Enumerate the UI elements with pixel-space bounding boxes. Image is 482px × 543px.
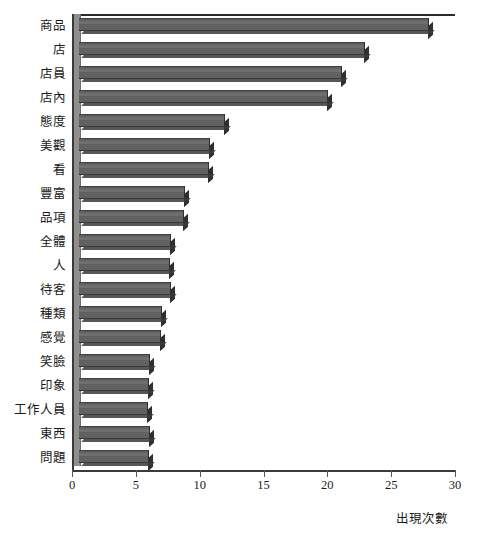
bar-depth-shadow bbox=[81, 222, 189, 226]
x-axis-title: 出現次數 bbox=[396, 508, 448, 527]
bar-highlight bbox=[79, 357, 149, 360]
bar[interactable] bbox=[79, 138, 210, 151]
bar-depth-shadow bbox=[81, 390, 155, 394]
category-label: 問題 bbox=[40, 451, 66, 464]
category-label: 美觀 bbox=[40, 139, 66, 152]
bar[interactable] bbox=[79, 402, 148, 415]
x-axis-tick bbox=[136, 470, 137, 477]
bar-depth-shadow bbox=[81, 342, 166, 346]
category-label: 工作人員 bbox=[14, 403, 66, 416]
bar[interactable] bbox=[79, 282, 171, 295]
x-axis-tick bbox=[455, 470, 456, 477]
bar-series bbox=[72, 14, 455, 472]
bar-highlight bbox=[79, 45, 364, 48]
bar-depth-shadow bbox=[81, 270, 175, 274]
category-label: 豐富 bbox=[40, 187, 66, 200]
category-label: 感覺 bbox=[40, 331, 66, 344]
x-axis-tick-label: 0 bbox=[69, 478, 75, 493]
category-label: 店 bbox=[53, 43, 66, 56]
x-axis-tick-label: 10 bbox=[193, 478, 206, 493]
x-axis-tick bbox=[200, 470, 201, 477]
bar-depth-shadow bbox=[81, 246, 177, 250]
bar[interactable] bbox=[79, 114, 225, 127]
category-axis-labels: 商品店店員店內態度美觀看豐富品項全體人待客種類感覺笑臉印象工作人員東西問題 bbox=[0, 14, 66, 472]
x-axis-tick-label: 25 bbox=[385, 478, 398, 493]
bar[interactable] bbox=[79, 330, 161, 343]
bar-highlight bbox=[79, 309, 161, 312]
bar-highlight bbox=[79, 141, 209, 144]
bar[interactable] bbox=[79, 210, 184, 223]
x-axis-tick bbox=[72, 470, 73, 477]
bar[interactable] bbox=[79, 162, 209, 175]
bar-depth-shadow bbox=[81, 462, 155, 466]
category-label: 店員 bbox=[40, 67, 66, 80]
bar-highlight bbox=[79, 429, 149, 432]
category-label: 店內 bbox=[40, 91, 66, 104]
bar[interactable] bbox=[79, 18, 429, 31]
x-axis-tick-label: 15 bbox=[257, 478, 270, 493]
bar-highlight bbox=[79, 93, 327, 96]
bar[interactable] bbox=[79, 354, 150, 367]
bar-highlight bbox=[79, 213, 183, 216]
x-axis-tick-label: 30 bbox=[449, 478, 462, 493]
category-label: 態度 bbox=[40, 115, 66, 128]
x-axis-tick bbox=[391, 470, 392, 477]
bar-highlight bbox=[79, 189, 184, 192]
bar-highlight bbox=[79, 261, 169, 264]
bar[interactable] bbox=[79, 90, 328, 103]
bar[interactable] bbox=[79, 234, 171, 247]
x-axis-tick-label: 5 bbox=[133, 478, 139, 493]
bar-depth-shadow bbox=[81, 150, 216, 154]
bar[interactable] bbox=[79, 306, 162, 319]
bar-depth-shadow bbox=[81, 126, 230, 130]
bar-depth-shadow bbox=[81, 318, 168, 322]
bar-depth-shadow bbox=[81, 438, 156, 442]
bar-chart: 商品店店員店內態度美觀看豐富品項全體人待客種類感覺笑臉印象工作人員東西問題 05… bbox=[0, 0, 482, 543]
category-label: 全體 bbox=[40, 235, 66, 248]
category-label: 笑臉 bbox=[40, 355, 66, 368]
x-axis-tick bbox=[264, 470, 265, 477]
bar-highlight bbox=[79, 21, 428, 24]
bar[interactable] bbox=[79, 426, 150, 439]
bar-depth-shadow bbox=[81, 294, 177, 298]
x-axis-tick-label: 20 bbox=[321, 478, 334, 493]
bar-highlight bbox=[79, 165, 208, 168]
category-label: 人 bbox=[53, 259, 66, 272]
category-label: 看 bbox=[53, 163, 66, 176]
bar[interactable] bbox=[79, 450, 149, 463]
plot-area bbox=[72, 14, 455, 472]
category-label: 待客 bbox=[40, 283, 66, 296]
bar-highlight bbox=[79, 285, 170, 288]
bar-highlight bbox=[79, 405, 147, 408]
bar-depth-shadow bbox=[81, 54, 371, 58]
bar-highlight bbox=[79, 333, 160, 336]
bar-depth-shadow bbox=[81, 78, 348, 82]
bar-highlight bbox=[79, 117, 224, 120]
x-axis-tick bbox=[327, 470, 328, 477]
bar-depth-shadow bbox=[81, 174, 215, 178]
bar-highlight bbox=[79, 381, 148, 384]
bar-highlight bbox=[79, 237, 170, 240]
bar-highlight bbox=[79, 453, 148, 456]
bar-depth-shadow bbox=[81, 30, 434, 34]
bar[interactable] bbox=[79, 42, 365, 55]
bar-depth-shadow bbox=[81, 366, 156, 370]
category-label: 商品 bbox=[40, 19, 66, 32]
category-label: 東西 bbox=[40, 427, 66, 440]
bar[interactable] bbox=[79, 378, 149, 391]
category-label: 品項 bbox=[40, 211, 66, 224]
bar-depth-shadow bbox=[81, 102, 334, 106]
category-label: 種類 bbox=[40, 307, 66, 320]
bar-depth-shadow bbox=[81, 198, 191, 202]
bar-depth-shadow bbox=[81, 414, 154, 418]
bar[interactable] bbox=[79, 186, 185, 199]
category-label: 印象 bbox=[40, 379, 66, 392]
bar[interactable] bbox=[79, 66, 342, 79]
bar[interactable] bbox=[79, 258, 170, 271]
bar-highlight bbox=[79, 69, 341, 72]
